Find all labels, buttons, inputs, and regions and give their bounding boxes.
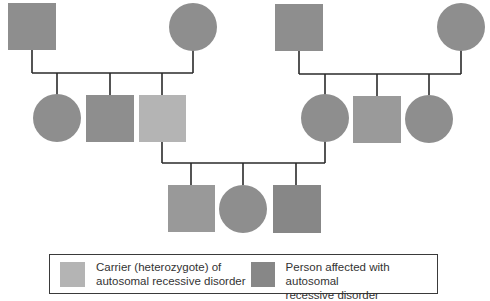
- gen2-left-male-carrier: [139, 95, 186, 142]
- legend-item-affected: Person affected with autosomal recessive…: [251, 260, 437, 301]
- gen2-right-female-affected: [301, 94, 349, 142]
- gen3-male-2: [273, 185, 321, 233]
- gen1-left-female-affected: [169, 3, 217, 51]
- gen2-right-male-affected: [353, 96, 401, 143]
- gen3-male-1: [168, 185, 215, 232]
- gen2-left-male-affected: [86, 95, 134, 142]
- gen1-right-male-affected: [275, 4, 323, 51]
- legend-label-carrier: Carrier (heterozygote) of autosomal rece…: [96, 260, 246, 288]
- affected-swatch-icon: [251, 262, 275, 287]
- gen2-left-female-affected: [33, 94, 81, 142]
- legend-label-affected: Person affected with autosomal recessive…: [286, 260, 437, 301]
- gen1-right-female-affected: [437, 3, 485, 51]
- gen3-female: [219, 185, 267, 233]
- gen1-left-male-affected: [8, 3, 56, 50]
- legend-item-carrier: Carrier (heterozygote) of autosomal rece…: [60, 260, 246, 288]
- gen2-right-female-affected-2: [405, 95, 453, 143]
- carrier-swatch-icon: [60, 262, 85, 287]
- legend: Carrier (heterozygote) of autosomal rece…: [49, 254, 438, 294]
